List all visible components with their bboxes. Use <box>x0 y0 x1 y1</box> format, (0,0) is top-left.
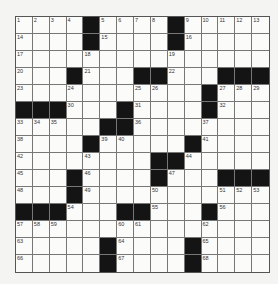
answer-cell[interactable]: 61 <box>134 221 151 238</box>
answer-cell[interactable]: 41 <box>202 136 219 153</box>
answer-cell[interactable] <box>202 170 219 187</box>
answer-cell[interactable]: 39 <box>100 136 117 153</box>
answer-cell[interactable]: 56 <box>218 204 235 221</box>
answer-cell[interactable] <box>100 68 117 85</box>
answer-cell[interactable] <box>33 170 50 187</box>
answer-cell[interactable] <box>202 51 219 68</box>
answer-cell[interactable] <box>67 136 84 153</box>
answer-cell[interactable] <box>185 102 202 119</box>
answer-cell[interactable] <box>67 51 84 68</box>
answer-cell[interactable]: 29 <box>252 85 269 102</box>
answer-cell[interactable]: 64 <box>117 238 134 255</box>
answer-cell[interactable]: 18 <box>83 51 100 68</box>
answer-cell[interactable] <box>218 51 235 68</box>
answer-cell[interactable]: 62 <box>202 221 219 238</box>
answer-cell[interactable] <box>134 51 151 68</box>
answer-cell[interactable] <box>252 238 269 255</box>
answer-cell[interactable] <box>50 51 67 68</box>
answer-cell[interactable]: 46 <box>83 170 100 187</box>
answer-cell[interactable] <box>33 255 50 272</box>
answer-cell[interactable]: 49 <box>83 187 100 204</box>
answer-cell[interactable]: 33 <box>16 119 33 136</box>
answer-cell[interactable]: 60 <box>117 221 134 238</box>
answer-cell[interactable] <box>235 238 252 255</box>
answer-cell[interactable] <box>33 238 50 255</box>
answer-cell[interactable] <box>67 153 84 170</box>
answer-cell[interactable] <box>252 136 269 153</box>
answer-cell[interactable] <box>50 255 67 272</box>
answer-cell[interactable] <box>218 34 235 51</box>
answer-cell[interactable]: 37 <box>202 119 219 136</box>
answer-cell[interactable] <box>100 170 117 187</box>
answer-cell[interactable] <box>134 153 151 170</box>
answer-cell[interactable]: 26 <box>151 85 168 102</box>
answer-cell[interactable] <box>235 221 252 238</box>
answer-cell[interactable] <box>185 170 202 187</box>
answer-cell[interactable] <box>50 136 67 153</box>
answer-cell[interactable]: 52 <box>235 187 252 204</box>
answer-cell[interactable]: 15 <box>100 34 117 51</box>
answer-cell[interactable] <box>151 102 168 119</box>
answer-cell[interactable] <box>83 119 100 136</box>
answer-cell[interactable] <box>50 238 67 255</box>
answer-cell[interactable]: 21 <box>83 68 100 85</box>
answer-cell[interactable] <box>235 136 252 153</box>
answer-cell[interactable] <box>67 119 84 136</box>
answer-cell[interactable] <box>151 51 168 68</box>
answer-cell[interactable] <box>100 204 117 221</box>
answer-cell[interactable] <box>117 51 134 68</box>
answer-cell[interactable]: 25 <box>134 85 151 102</box>
answer-cell[interactable] <box>134 136 151 153</box>
answer-cell[interactable]: 3 <box>50 17 67 34</box>
answer-cell[interactable] <box>134 170 151 187</box>
answer-cell[interactable]: 6 <box>117 17 134 34</box>
answer-cell[interactable] <box>50 187 67 204</box>
answer-cell[interactable] <box>117 68 134 85</box>
answer-cell[interactable]: 14 <box>16 34 33 51</box>
answer-cell[interactable] <box>100 153 117 170</box>
answer-cell[interactable]: 10 <box>202 17 219 34</box>
answer-cell[interactable] <box>252 204 269 221</box>
answer-cell[interactable] <box>168 255 185 272</box>
answer-cell[interactable]: 30 <box>67 102 84 119</box>
answer-cell[interactable]: 5 <box>100 17 117 34</box>
answer-cell[interactable] <box>185 204 202 221</box>
answer-cell[interactable] <box>50 170 67 187</box>
answer-cell[interactable] <box>151 119 168 136</box>
answer-cell[interactable]: 31 <box>134 102 151 119</box>
answer-cell[interactable] <box>235 119 252 136</box>
answer-cell[interactable] <box>117 170 134 187</box>
answer-cell[interactable] <box>33 51 50 68</box>
answer-cell[interactable] <box>151 221 168 238</box>
answer-cell[interactable] <box>218 136 235 153</box>
answer-cell[interactable] <box>134 255 151 272</box>
answer-cell[interactable] <box>50 153 67 170</box>
answer-cell[interactable] <box>168 187 185 204</box>
answer-cell[interactable]: 17 <box>16 51 33 68</box>
answer-cell[interactable] <box>33 153 50 170</box>
answer-cell[interactable]: 53 <box>252 187 269 204</box>
answer-cell[interactable]: 20 <box>16 68 33 85</box>
answer-cell[interactable] <box>117 187 134 204</box>
answer-cell[interactable]: 51 <box>218 187 235 204</box>
answer-cell[interactable]: 40 <box>117 136 134 153</box>
answer-cell[interactable] <box>83 85 100 102</box>
answer-cell[interactable] <box>83 221 100 238</box>
answer-cell[interactable] <box>252 51 269 68</box>
answer-cell[interactable] <box>252 119 269 136</box>
answer-cell[interactable] <box>100 85 117 102</box>
answer-cell[interactable] <box>50 34 67 51</box>
answer-cell[interactable]: 43 <box>83 153 100 170</box>
answer-cell[interactable] <box>185 85 202 102</box>
answer-cell[interactable]: 42 <box>16 153 33 170</box>
answer-cell[interactable] <box>218 221 235 238</box>
answer-cell[interactable] <box>33 85 50 102</box>
answer-cell[interactable] <box>202 187 219 204</box>
answer-cell[interactable] <box>168 85 185 102</box>
answer-cell[interactable] <box>235 204 252 221</box>
answer-cell[interactable] <box>252 153 269 170</box>
answer-cell[interactable] <box>83 238 100 255</box>
answer-cell[interactable] <box>185 221 202 238</box>
answer-cell[interactable]: 65 <box>202 238 219 255</box>
answer-cell[interactable] <box>252 102 269 119</box>
